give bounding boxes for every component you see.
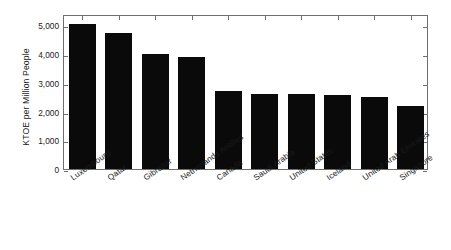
y-axis-tick-mark-right [423,27,427,28]
y-axis-tick-mark [64,27,68,28]
bar [324,95,351,169]
x-axis-tick-mark-top [228,16,229,20]
x-axis-tick-mark-top [192,16,193,20]
y-axis-tick-mark-right [423,85,427,86]
x-axis-tick-mark-top [82,16,83,20]
bar [105,33,132,169]
y-axis-tick-label: 1,000 [19,136,59,146]
x-axis-tick-mark-top [119,16,120,20]
bar [178,57,205,169]
x-axis-tick-mark-top [374,16,375,20]
y-axis-tick-mark [64,114,68,115]
y-axis-tick-label: 3,000 [19,79,59,89]
bar [69,24,96,169]
x-axis-tick-mark-top [155,16,156,20]
y-axis-tick-mark [64,56,68,57]
y-axis-tick-mark [64,142,68,143]
y-axis-tick-mark [64,171,68,172]
y-axis-tick-mark [64,85,68,86]
y-axis-tick-label: 0 [19,165,59,175]
y-axis-tick-label: 4,000 [19,50,59,60]
y-axis-tick-label: 2,000 [19,108,59,118]
bar [142,54,169,169]
y-axis-tick-label: 5,000 [19,21,59,31]
x-axis-tick-mark-top [301,16,302,20]
x-axis-tick-mark-top [338,16,339,20]
y-axis-tick-mark-right [423,56,427,57]
y-axis-title: KTOE per Million People [21,17,31,177]
plot-area [63,15,428,170]
bar-chart-figure: KTOE per Million People 01,0002,0003,000… [0,0,451,250]
x-axis-tick-mark-top [411,16,412,20]
y-axis-tick-mark-right [423,171,427,172]
x-axis-tick-mark-top [265,16,266,20]
